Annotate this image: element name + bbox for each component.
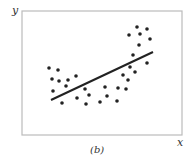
data-point	[124, 87, 128, 91]
data-point	[60, 101, 64, 105]
data-point	[121, 73, 125, 77]
data-point	[105, 94, 109, 98]
data-point	[145, 27, 149, 31]
data-point	[87, 93, 91, 97]
data-point	[128, 65, 132, 69]
data-point	[51, 89, 55, 93]
data-point	[133, 70, 137, 74]
data-point	[103, 85, 107, 89]
plot-frame	[22, 11, 182, 135]
data-point	[131, 53, 135, 57]
data-point	[145, 61, 149, 65]
data-point	[47, 66, 51, 70]
fit-line	[51, 52, 153, 100]
data-point	[116, 86, 120, 90]
data-point	[75, 96, 79, 100]
data-point	[57, 79, 61, 83]
data-point	[126, 78, 130, 82]
scatter-plot	[0, 0, 195, 164]
data-point	[115, 99, 119, 103]
data-point	[138, 32, 142, 36]
data-point	[66, 78, 70, 82]
data-point	[127, 33, 131, 37]
y-axis-label: y	[12, 4, 18, 17]
data-point	[98, 100, 102, 104]
data-point	[84, 102, 88, 106]
x-axis-label: x	[177, 136, 183, 149]
data-point	[137, 43, 141, 47]
data-point	[64, 84, 68, 88]
data-point	[148, 37, 152, 41]
data-point	[135, 25, 139, 29]
data-point	[50, 77, 54, 81]
data-point	[74, 74, 78, 78]
data-point	[56, 68, 60, 72]
data-point	[83, 87, 87, 91]
figure-caption: (b)	[90, 144, 104, 155]
